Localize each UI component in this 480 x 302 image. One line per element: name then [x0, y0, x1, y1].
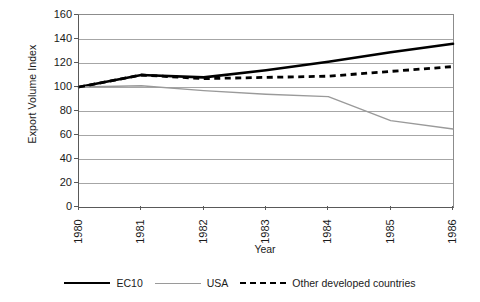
y-axis-tick-label: 80	[38, 105, 72, 116]
legend-item-other-developed-countries: Other developed countries	[228, 277, 415, 289]
y-axis-tick-labels: 160140120100806040200	[38, 0, 72, 302]
x-axis-tick-mark	[452, 206, 453, 210]
series-line-ec10	[79, 44, 453, 87]
x-axis-tick-labels: 1980198119821983198419851986	[78, 212, 452, 246]
y-axis-tick-label: 40	[38, 153, 72, 164]
legend-item-ec10: EC10	[64, 277, 142, 289]
legend-item-usa: USA	[143, 277, 229, 289]
chart-legend: EC10 USA Other developed countries	[0, 274, 480, 292]
legend-swatch-dashed-line-icon	[240, 278, 286, 288]
legend-label-usa: USA	[207, 277, 229, 289]
plot-area	[78, 14, 454, 208]
y-axis-tick-label: 140	[38, 33, 72, 44]
legend-label-other-developed-countries: Other developed countries	[292, 277, 415, 289]
x-axis-tick-mark	[265, 206, 266, 210]
x-axis-tick-mark	[203, 206, 204, 210]
legend-label-ec10: EC10	[116, 277, 142, 289]
x-axis-tick-mark	[390, 206, 391, 210]
y-axis-tick-label: 100	[38, 81, 72, 92]
legend-swatch-gray-line-icon	[155, 278, 201, 288]
y-axis-tick-label: 160	[38, 9, 72, 20]
x-axis-title: Year	[78, 243, 452, 255]
x-axis-tick-mark	[78, 206, 79, 210]
y-axis-tick-label: 120	[38, 57, 72, 68]
y-axis-tick-label: 20	[38, 177, 72, 188]
x-axis-tick-mark	[140, 206, 141, 210]
series-canvas	[79, 15, 453, 207]
y-axis-tick-label: 60	[38, 129, 72, 140]
chart-figure: Export Volume Index 16014012010080604020…	[0, 0, 480, 302]
y-axis-tick-label: 0	[38, 201, 72, 212]
x-axis-tick-mark	[327, 206, 328, 210]
legend-swatch-solid-line-icon	[64, 278, 110, 288]
series-line-usa	[79, 86, 453, 129]
y-axis-title: Export Volume Index	[26, 14, 38, 174]
